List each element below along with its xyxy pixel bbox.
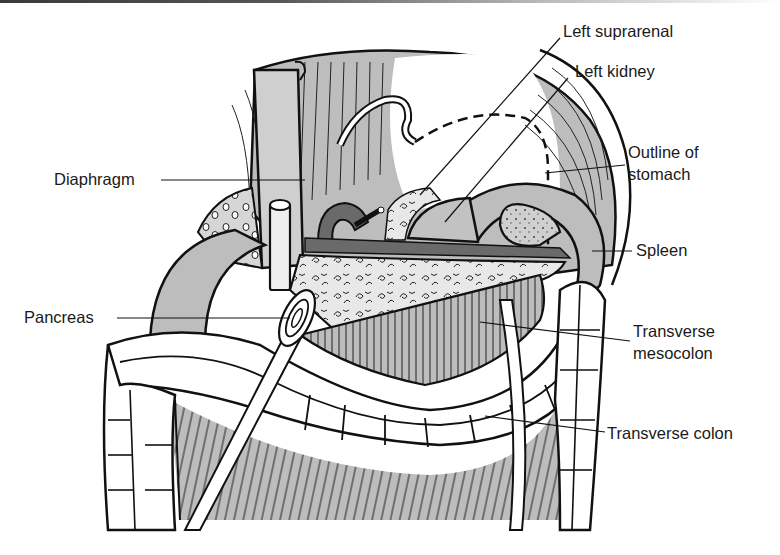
label-pancreas: Pancreas: [24, 308, 94, 327]
label-transverse-mesocolon-1: Transverse: [633, 322, 715, 341]
descending-colon: [555, 282, 605, 530]
label-transverse-colon: Transverse colon: [607, 424, 733, 443]
label-outline-of-stomach-2: stomach: [628, 165, 690, 184]
label-transverse-mesocolon-2: mesocolon: [633, 344, 713, 363]
vessel-stump: [270, 205, 290, 290]
anatomical-diagram: [0, 0, 780, 555]
label-outline-of-stomach-1: Outline of: [628, 143, 699, 162]
label-left-suprarenal: Left suprarenal: [563, 22, 673, 41]
label-spleen: Spleen: [636, 241, 687, 260]
label-left-kidney: Left kidney: [575, 62, 655, 81]
duodenum: [150, 230, 265, 345]
label-diaphragm: Diaphragm: [54, 170, 135, 189]
